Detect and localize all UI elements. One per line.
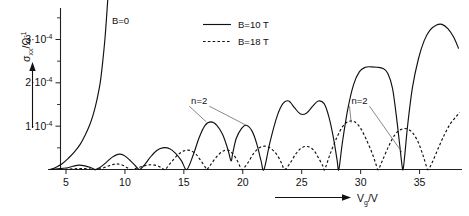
x-tick-label-5: 5 bbox=[63, 176, 69, 188]
legend-item-b18: B=18 T bbox=[203, 36, 269, 47]
x-tick-label-30: 30 bbox=[355, 176, 367, 188]
annotation-n-2-right: n=2 bbox=[351, 95, 367, 106]
x-axis-title: Vg/V bbox=[357, 192, 378, 207]
x-axis-group: 5101520253035 Vg/V bbox=[48, 170, 462, 207]
annotation-n2-right-group: n=2 bbox=[349, 95, 401, 153]
x-axis-tick-labels: 5101520253035 bbox=[63, 176, 425, 188]
x-tick-label-15: 15 bbox=[178, 176, 190, 188]
x-tick-label-25: 25 bbox=[296, 176, 308, 188]
annotation-b-zero: B=0 bbox=[112, 15, 129, 26]
legend-item-b10: B=10 T bbox=[203, 19, 269, 30]
sigma-xx-vs-gate-voltage-chart: 1·10-42·10-43·10-4 σxx/Ω-1 5101520253035 bbox=[0, 0, 469, 216]
x-tick-label-35: 35 bbox=[414, 176, 426, 188]
legend-label-b18: B=18 T bbox=[238, 36, 269, 47]
y-axis-unit: /Ω bbox=[20, 38, 32, 49]
y-tick-label-1: 1·10-4 bbox=[25, 120, 52, 132]
y-axis-exp: -1 bbox=[20, 31, 27, 37]
figure-container: 1·10-42·10-43·10-4 σxx/Ω-1 5101520253035 bbox=[0, 0, 469, 216]
y-tick-label-2: 2·10-4 bbox=[25, 76, 52, 88]
annotation-n2-left-group: n=2 bbox=[189, 95, 246, 126]
x-axis-ticks bbox=[66, 170, 420, 175]
legend: B=10 T B=18 T bbox=[203, 19, 269, 47]
x-axis-v-symbol: V bbox=[357, 192, 364, 204]
x-tick-label-10: 10 bbox=[119, 176, 131, 188]
y-axis-group: 1·10-42·10-43·10-4 σxx/Ω-1 bbox=[20, 8, 61, 170]
y-axis-arrow bbox=[29, 62, 35, 128]
y-axis-ticks bbox=[56, 18, 61, 148]
annotation-n-2-left: n=2 bbox=[191, 95, 207, 106]
x-tick-label-20: 20 bbox=[237, 176, 249, 188]
legend-label-b10: B=10 T bbox=[238, 19, 269, 30]
x-axis-arrow bbox=[275, 194, 351, 201]
x-axis-unit: /V bbox=[368, 192, 378, 204]
curve-b-0 bbox=[51, 0, 108, 169]
